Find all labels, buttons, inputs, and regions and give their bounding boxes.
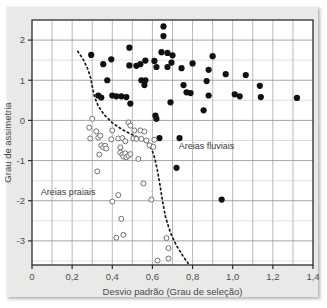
data-point-filled — [137, 61, 143, 67]
data-point-open — [110, 199, 115, 204]
y-tick-label: -1 — [17, 155, 25, 166]
data-point-filled — [160, 23, 166, 29]
data-point-filled — [169, 52, 175, 58]
data-point-filled — [88, 52, 94, 58]
x-axis-title: Desvio padrão (Grau de seleção) — [103, 286, 243, 297]
data-point-open — [134, 136, 139, 141]
data-point-open — [136, 156, 141, 161]
data-point-filled — [141, 82, 147, 88]
x-tick-label: 0,4 — [106, 271, 119, 282]
x-tick-label: 0,8 — [186, 271, 199, 282]
data-point-filled — [126, 62, 132, 68]
figure-root: 00,20,40,60,81,01,21,4210-1-2-3Desvio pa… — [0, 0, 327, 308]
data-point-filled — [153, 64, 159, 70]
data-point-filled — [158, 49, 164, 55]
scatter-chart: 00,20,40,60,81,01,21,4210-1-2-3Desvio pa… — [0, 0, 327, 308]
data-point-filled — [151, 58, 157, 64]
region-label: Areias praiais — [41, 187, 96, 197]
data-point-filled — [98, 94, 104, 100]
data-point-filled — [223, 71, 229, 77]
data-point-open — [95, 169, 100, 174]
data-point-filled — [164, 64, 170, 70]
data-point-open — [114, 235, 119, 240]
data-point-filled — [167, 99, 173, 105]
data-point-open — [97, 152, 102, 157]
y-tick-label: 2 — [20, 34, 25, 45]
data-point-filled — [189, 60, 195, 66]
data-point-open — [88, 136, 93, 141]
x-tick-label: 1,0 — [226, 271, 239, 282]
data-point-filled — [237, 93, 243, 99]
data-point-open — [142, 129, 147, 134]
data-point-filled — [104, 77, 110, 83]
y-tick-label: -2 — [17, 195, 25, 206]
data-point-open — [119, 216, 124, 221]
data-point-open — [164, 236, 169, 241]
data-point-filled — [173, 165, 179, 171]
data-point-open — [87, 125, 92, 130]
data-point-filled — [180, 82, 186, 88]
x-tick-label: 0,2 — [66, 271, 79, 282]
data-point-open — [128, 123, 133, 128]
data-point-filled — [153, 116, 159, 122]
data-point-filled — [123, 94, 129, 100]
data-point-open — [128, 152, 133, 157]
data-point-filled — [178, 65, 184, 71]
data-point-filled — [160, 33, 166, 39]
data-point-open — [110, 128, 115, 133]
x-tick-label: 1,2 — [266, 271, 279, 282]
data-point-open — [98, 133, 103, 138]
data-point-filled — [142, 57, 148, 63]
data-point-open — [94, 129, 99, 134]
region-label: Areias fluviais — [179, 141, 235, 151]
y-tick-label: 0 — [20, 115, 25, 126]
data-point-open — [166, 246, 171, 251]
data-point-filled — [210, 53, 216, 59]
y-axis: 210-1-2-3 — [17, 34, 32, 246]
x-axis: 00,20,40,60,81,01,21,4 — [29, 265, 319, 282]
y-tick-label: -3 — [17, 235, 25, 246]
data-point-filled — [100, 61, 106, 67]
data-point-filled — [219, 196, 225, 202]
data-point-open — [116, 193, 121, 198]
data-point-open — [166, 256, 171, 261]
data-point-open — [118, 145, 123, 150]
data-point-filled — [258, 94, 264, 100]
data-point-filled — [243, 72, 249, 78]
x-tick-label: 0,6 — [146, 271, 159, 282]
data-point-open — [121, 232, 126, 237]
data-point-open — [123, 139, 128, 144]
data-point-open — [151, 144, 156, 149]
data-point-filled — [127, 100, 133, 106]
data-point-filled — [201, 107, 207, 113]
data-point-open — [149, 197, 154, 202]
data-point-filled — [204, 78, 210, 84]
data-point-open — [141, 181, 146, 186]
data-point-filled — [126, 45, 132, 51]
data-point-open — [139, 136, 144, 141]
x-tick-label: 1,4 — [306, 271, 319, 282]
data-point-filled — [257, 83, 263, 89]
data-point-filled — [206, 67, 212, 73]
data-point-open — [144, 138, 149, 143]
y-tick-label: 1 — [20, 75, 25, 86]
data-point-open — [132, 128, 137, 133]
data-point-filled — [108, 56, 114, 62]
data-point-open — [109, 137, 114, 142]
y-axis-title: Grau de assimetria — [2, 102, 13, 183]
data-point-filled — [206, 92, 212, 98]
data-point-open — [155, 258, 160, 263]
data-point-open — [104, 146, 109, 151]
data-point-open — [90, 116, 95, 121]
data-point-filled — [187, 90, 193, 96]
data-point-open — [152, 137, 157, 142]
x-tick-label: 0 — [29, 271, 34, 282]
data-point-filled — [176, 135, 182, 141]
data-point-filled — [294, 95, 300, 101]
